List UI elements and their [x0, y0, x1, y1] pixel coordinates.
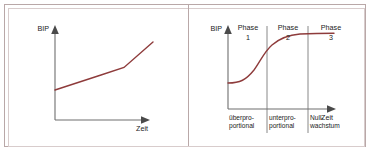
phase-1-bottom-line2: portional: [229, 122, 255, 130]
y-axis-arrow-icon: [51, 25, 59, 34]
linear-growth-plot: BIP Zeit: [0, 0, 188, 159]
x-axis-arrow-icon: [327, 105, 336, 113]
linear-growth-chart: BIP Zeit: [0, 0, 188, 159]
phase-3-title: Phase: [321, 23, 341, 32]
linear-growth-line: [55, 42, 153, 90]
x-axis-arrow-icon: [141, 116, 150, 124]
phase-2-title: Phase: [278, 23, 298, 32]
phase-3-bottom-line1: Null-: [310, 114, 324, 121]
left-y-axis-label: BIP: [37, 24, 49, 33]
phase-2-bottom-line2: portional: [269, 122, 295, 130]
phase-2-number: 2: [286, 33, 290, 42]
figure-container: BIP Zeit Phase 1 Phase 2 Phase 3: [0, 0, 374, 159]
left-x-axis-label: Zeit: [136, 124, 148, 133]
phase-2-bottom-line1: unterpro-: [269, 114, 296, 122]
phase-growth-chart: Phase 1 Phase 2 Phase 3 BIP Zeit überpro…: [188, 0, 374, 159]
phase-1-bottom-line1: überpro-: [229, 114, 254, 122]
s-curve-line: [228, 33, 334, 83]
phase-growth-plot: Phase 1 Phase 2 Phase 3 BIP Zeit überpro…: [188, 0, 374, 159]
right-y-axis-label: BIP: [210, 24, 222, 33]
phase-3-bottom-line2: wachstum: [309, 122, 340, 129]
phase-1-title: Phase: [238, 23, 258, 32]
phase-1-number: 1: [246, 33, 250, 42]
y-axis-arrow-icon: [224, 25, 232, 34]
phase-3-number: 3: [329, 33, 333, 42]
